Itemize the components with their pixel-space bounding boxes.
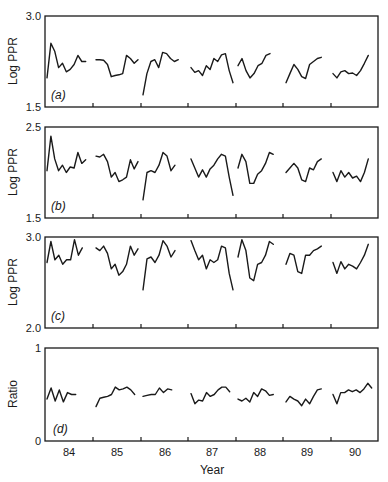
series-line-89 xyxy=(286,246,321,273)
year-label-89: 89 xyxy=(301,446,313,458)
year-label-90: 90 xyxy=(349,446,361,458)
series-line-88 xyxy=(238,54,270,78)
panel-a-ytick-bottom: 1.5 xyxy=(26,101,41,113)
x-axis-year-labels: 84 85 86 87 88 89 90 xyxy=(63,446,361,458)
panel-d-ytick-top: 1 xyxy=(35,342,41,354)
year-label-87: 87 xyxy=(206,446,218,458)
series-line-89 xyxy=(286,57,321,82)
x-axis-title: Year xyxy=(200,463,224,477)
series-line-86 xyxy=(143,388,172,396)
series-line-84 xyxy=(47,136,86,172)
panel-a-label: (a) xyxy=(51,88,66,102)
series-line-88 xyxy=(238,389,273,402)
panel-a-ylabel: Log PPR xyxy=(6,37,20,85)
series-line-89 xyxy=(286,389,321,406)
series-line-85 xyxy=(96,246,138,275)
panel-d-series xyxy=(47,383,372,406)
series-line-86 xyxy=(143,52,178,95)
series-line-90 xyxy=(333,244,368,273)
series-line-86 xyxy=(143,153,175,200)
panel-d-label: (d) xyxy=(53,422,68,436)
series-line-87 xyxy=(191,54,233,83)
series-line-84 xyxy=(47,240,82,265)
panel-b-ylabel: Log PPR xyxy=(6,148,20,196)
year-label-86: 86 xyxy=(159,446,171,458)
panel-c-frame xyxy=(45,237,378,328)
series-line-87 xyxy=(191,154,233,195)
year-label-85: 85 xyxy=(111,446,123,458)
series-line-84 xyxy=(47,43,86,78)
panel-b-ytick-bottom: 1.5 xyxy=(26,212,41,224)
panel-d-ylabel: Ratio xyxy=(6,380,20,408)
panel-a-series xyxy=(47,43,368,95)
panel-a: 3.0 1.5 Log PPR (a) xyxy=(6,10,378,113)
year-label-88: 88 xyxy=(254,446,266,458)
series-line-90 xyxy=(333,159,368,182)
chart: 3.0 1.5 Log PPR (a) 2.5 1.5 Log PPR (b) … xyxy=(0,0,388,482)
panel-a-frame xyxy=(45,16,378,107)
panel-b: 2.5 1.5 Log PPR (b) xyxy=(6,121,378,224)
panel-a-ytick-top: 3.0 xyxy=(26,10,41,22)
series-line-88 xyxy=(238,240,273,281)
series-line-89 xyxy=(286,159,321,182)
series-line-87 xyxy=(191,387,230,404)
series-line-86 xyxy=(143,241,175,290)
panel-b-frame xyxy=(45,127,378,218)
series-line-85 xyxy=(96,55,138,76)
series-line-85 xyxy=(96,154,138,181)
panel-c-label: (c) xyxy=(51,309,65,323)
panel-d-ytick-bottom: 0 xyxy=(35,435,41,447)
series-line-84 xyxy=(47,388,76,402)
series-line-88 xyxy=(238,153,273,184)
panel-d: 1 0 Ratio (d) 84 85 86 87 88 89 90 Year xyxy=(6,342,378,477)
series-line-87 xyxy=(191,241,233,290)
panel-d-frame xyxy=(45,348,378,441)
panel-b-series xyxy=(47,136,368,200)
panel-b-label: (b) xyxy=(51,199,66,213)
panel-c-ytick-top: 3.0 xyxy=(26,231,41,243)
series-line-90 xyxy=(333,55,368,78)
year-label-84: 84 xyxy=(63,446,75,458)
series-line-85 xyxy=(96,387,135,407)
panel-c: 3.0 2.0 Log PPR (c) xyxy=(6,231,378,334)
panel-c-ytick-bottom: 2.0 xyxy=(26,322,41,334)
panel-b-ytick-top: 2.5 xyxy=(26,121,41,133)
panel-c-ylabel: Log PPR xyxy=(6,258,20,306)
series-line-90 xyxy=(333,383,372,404)
panel-c-series xyxy=(47,240,368,290)
